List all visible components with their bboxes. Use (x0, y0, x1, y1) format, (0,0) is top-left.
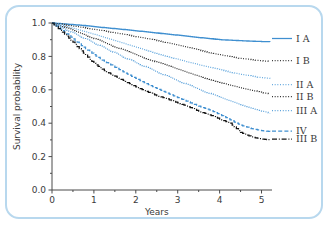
y-tick-label: 0.4 (32, 118, 47, 128)
x-tick-label: 3 (175, 195, 181, 205)
chart-svg: 0.00.20.40.60.81.0012345YearsSurvival pr… (0, 0, 336, 231)
curve-ib (52, 23, 270, 61)
legend-label-iiia: III A (296, 105, 317, 116)
y-tick-label: 0.0 (32, 185, 47, 195)
curve-iia (52, 23, 270, 78)
survival-chart: 0.00.20.40.60.81.0012345YearsSurvival pr… (0, 0, 336, 231)
legend-label-ib: I B (296, 55, 310, 66)
y-tick-label: 0.2 (32, 152, 46, 162)
x-tick-label: 4 (217, 195, 223, 205)
x-tick-label: 5 (259, 195, 265, 205)
x-tick-label: 2 (133, 195, 139, 205)
y-tick-label: 0.6 (32, 85, 47, 95)
curve-iiia (52, 23, 270, 113)
y-tick-label: 0.8 (32, 52, 47, 62)
curve-ia (52, 23, 270, 42)
x-tick-label: 0 (49, 195, 55, 205)
legend-label-iiib: III B (296, 133, 317, 144)
x-tick-label: 1 (91, 195, 97, 205)
x-axis-title: Years (144, 207, 169, 217)
legend-label-iia: II A (296, 79, 314, 90)
legend-label-ia: I A (296, 33, 310, 44)
y-tick-label: 1.0 (32, 18, 47, 28)
legend-label-iib: II B (296, 91, 314, 102)
curve-iv (52, 23, 270, 132)
y-axis-title: Survival probability (12, 62, 22, 150)
